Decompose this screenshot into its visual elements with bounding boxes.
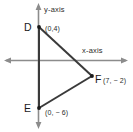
vertex-dot-E — [37, 106, 41, 110]
vertex-label-D: D — [24, 21, 32, 33]
triangle-def — [39, 27, 92, 108]
vertex-label-F: F — [95, 73, 102, 85]
coordinate-plane-diagram: y-axis x-axis D (0,4) E (0, − 6) F (7, −… — [0, 0, 133, 132]
vertex-dot-F — [90, 74, 94, 78]
x-axis-group — [4, 58, 128, 64]
vertex-coord-E: (0, − 6) — [45, 109, 68, 117]
x-axis-label: x-axis — [82, 46, 103, 55]
x-axis-left-arrowhead-icon — [4, 58, 11, 64]
vertex-dot-D — [37, 25, 41, 29]
edge-EF — [39, 76, 92, 108]
vertex-coord-D: (0,4) — [45, 25, 60, 33]
diagram-canvas: y-axis x-axis D (0,4) E (0, − 6) F (7, −… — [0, 0, 133, 132]
vertex-coord-F: (7, − 2) — [103, 77, 126, 85]
x-axis-right-arrowhead-icon — [121, 58, 128, 64]
y-axis-up-arrowhead-icon — [36, 3, 42, 10]
vertex-label-E: E — [24, 102, 31, 114]
y-axis-down-arrowhead-icon — [36, 122, 42, 129]
y-axis-label: y-axis — [44, 5, 65, 14]
